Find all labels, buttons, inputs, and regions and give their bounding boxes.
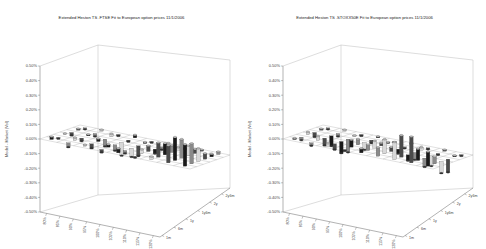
x-tick-label: 100% [96, 228, 100, 238]
z-tick-label: 1m [409, 236, 414, 240]
y-tick-label: -0.40% [267, 195, 280, 200]
x-tick-label: 100% [339, 228, 343, 238]
y-tick-label: 0.40% [26, 78, 38, 83]
x-tick-label: 85% [56, 219, 60, 227]
bar [197, 148, 201, 161]
y-tick-label: 0.00% [26, 136, 38, 141]
x-tick-label: 120% [149, 239, 153, 249]
bar [400, 135, 404, 157]
bar [157, 143, 161, 158]
chart-stoxx50e: Extended Heston TS .STOXX50E Fit to Euro… [243, 0, 486, 249]
bar [376, 147, 380, 156]
bar [423, 158, 427, 167]
bar [130, 148, 134, 157]
bar [163, 143, 167, 155]
x-tick-label: 105% [352, 230, 356, 240]
y-tick-label: -0.30% [24, 180, 37, 185]
x-tick-label: 90% [312, 222, 316, 230]
y-tick-label: 0.30% [269, 93, 281, 98]
bar [340, 142, 344, 154]
y-tick-label: 0.30% [26, 93, 38, 98]
bars [293, 128, 463, 174]
z-tick-label: 1y6m [202, 211, 211, 215]
y-axis-label: Model - Market (Vol) [4, 120, 9, 157]
bar [393, 142, 397, 160]
x-tick-label: 120% [392, 239, 396, 249]
bar [323, 138, 327, 145]
y-tick-label: 0.20% [269, 107, 281, 112]
bar [413, 153, 417, 160]
bar [173, 137, 177, 160]
x-tick-label: 80% [43, 217, 47, 225]
z-tick-label: 1y [433, 219, 437, 223]
z-tick-label: 6m [421, 227, 426, 231]
x-tick-label: 105% [109, 230, 113, 240]
chart-plot: 0.50%0.40%0.30%0.20%0.10%0.00%-0.10%-0.2… [243, 0, 486, 249]
bar [330, 136, 334, 146]
y-tick-label: 0.00% [269, 136, 281, 141]
y-tick-label: 0.40% [269, 78, 281, 83]
y-tick-label: -0.50% [267, 209, 280, 214]
y-tick-label: -0.10% [267, 151, 280, 156]
bar [383, 139, 387, 154]
y-tick-label: -0.30% [267, 180, 280, 185]
y-axis-label: Model - Market (Vol) [247, 120, 252, 157]
y-tick-label: -0.50% [24, 209, 37, 214]
x-tick-label: 95% [326, 225, 330, 233]
bar [416, 149, 420, 161]
bar [446, 159, 450, 172]
y-tick-label: -0.40% [24, 195, 37, 200]
bar [167, 145, 171, 163]
x-tick-label: 80% [286, 217, 290, 225]
bar [137, 146, 141, 156]
z-tick-label: 1y6m [445, 211, 454, 215]
axes-frame: 0.50%0.40%0.30%0.20%0.10%0.00%-0.10%-0.2… [247, 45, 477, 249]
bar [183, 144, 187, 166]
x-tick-label: 85% [299, 219, 303, 227]
x-tick-label: 110% [123, 233, 127, 243]
chart-ftse: Extended Heston TS .FTSE Fit to European… [0, 0, 243, 249]
bar [120, 143, 124, 156]
axes-frame: 0.50%0.40%0.30%0.20%0.10%0.00%-0.10%-0.2… [4, 45, 234, 249]
x-tick-label: 115% [136, 236, 140, 246]
z-tick-label: 1y [190, 219, 194, 223]
z-tick-label: 6m [178, 227, 183, 231]
chart-plot: 0.50%0.40%0.30%0.20%0.10%0.00%-0.10%-0.2… [0, 0, 243, 249]
z-tick-label: 2y [457, 202, 461, 206]
bar [426, 152, 430, 167]
bar [440, 162, 444, 174]
bar [103, 139, 107, 146]
bar [350, 140, 354, 147]
bar [346, 139, 350, 152]
y-tick-label: 0.50% [26, 63, 38, 68]
z-tick-label: 1m [166, 236, 171, 240]
bar [187, 146, 191, 156]
bar [180, 139, 184, 158]
bar [430, 156, 434, 166]
bar [410, 137, 414, 163]
y-tick-label: 0.10% [26, 122, 38, 127]
z-tick-label: 2y6m [226, 194, 235, 198]
y-tick-label: 0.10% [269, 122, 281, 127]
x-tick-label: 115% [379, 236, 383, 246]
y-tick-label: -0.20% [267, 166, 280, 171]
bar [373, 141, 377, 148]
x-tick-label: 90% [69, 222, 73, 230]
bar [170, 145, 174, 152]
x-tick-label: 95% [83, 225, 87, 233]
y-tick-label: 0.50% [269, 63, 281, 68]
y-tick-label: -0.20% [24, 166, 37, 171]
y-tick-label: -0.10% [24, 151, 37, 156]
bar [363, 143, 367, 150]
y-tick-label: 0.20% [26, 107, 38, 112]
bar [433, 157, 437, 164]
z-tick-label: 2y6m [469, 194, 478, 198]
bar [190, 143, 194, 163]
x-tick-label: 110% [366, 233, 370, 243]
z-tick-label: 2y [214, 202, 218, 206]
